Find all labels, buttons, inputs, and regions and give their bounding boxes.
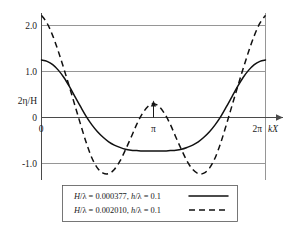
x-tick-label-0: 0 [39, 124, 44, 134]
legend: H/λ = 0.000377, h/λ = 0.1 H/λ = 0.002010… [63, 186, 238, 222]
y-tick-label-minus-1: -1.0 [22, 159, 37, 169]
legend-label-solid: H/λ = 0.000377, h/λ = 0.1 [73, 192, 161, 201]
cnoidal-wave-chart: 2.0 1.0 0 -1.0 2η/H 0 π 2π kX H/λ = 0.00… [0, 0, 301, 230]
y-axis-title: 2η/H [18, 96, 37, 106]
x-tick-label-2pi: 2π [252, 124, 262, 134]
x-axis-title: kX [268, 124, 279, 134]
y-tick-label-2: 2.0 [25, 21, 37, 31]
figure-container: 2.0 1.0 0 -1.0 2η/H 0 π 2π kX H/λ = 0.00… [0, 0, 301, 230]
legend-value-dashed: 0.002010 [95, 206, 126, 215]
y-axis-title-text: 2η/H [18, 96, 37, 106]
legend-border [63, 186, 238, 222]
y-tick-label-1: 1.0 [25, 67, 37, 77]
legend-value-solid: 0.000377 [95, 192, 126, 201]
legend-label-dashed: H/λ = 0.002010, h/λ = 0.1 [73, 206, 161, 215]
x-tick-label-pi: π [151, 124, 156, 134]
y-tick-label-0: 0 [32, 113, 37, 123]
